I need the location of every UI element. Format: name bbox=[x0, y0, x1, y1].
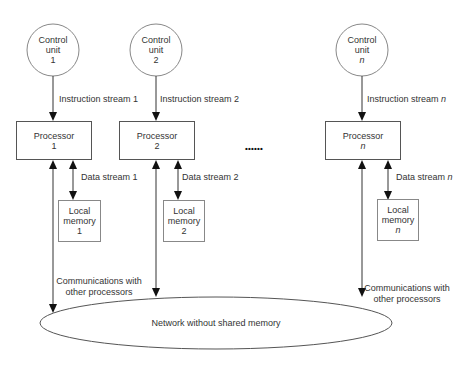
local-memory-1-line2: memory bbox=[58, 216, 101, 226]
communications-left-line1: Communications with bbox=[56, 276, 142, 287]
communications-label-right: Communications with other processors bbox=[364, 283, 450, 305]
instruction-stream-2-index: 2 bbox=[234, 94, 239, 104]
processor-2-index: 2 bbox=[119, 141, 195, 151]
control-unit-2-label: Control unit 2 bbox=[130, 35, 182, 65]
processor-n-text: Processor bbox=[325, 131, 401, 141]
control-unit-1-index: 1 bbox=[27, 55, 79, 65]
communications-right-line1: Communications with bbox=[364, 283, 450, 294]
local-memory-n-line2: memory bbox=[377, 215, 419, 225]
instruction-stream-1-text: Instruction stream bbox=[59, 94, 131, 104]
instruction-stream-n-label: Instruction stream n bbox=[367, 94, 446, 105]
network-label: Network without shared memory bbox=[130, 318, 302, 329]
instruction-stream-1-index: 1 bbox=[133, 94, 138, 104]
data-stream-2-label: Data stream 2 bbox=[182, 172, 239, 183]
local-memory-1-index: 1 bbox=[58, 226, 101, 236]
data-stream-n-text: Data stream bbox=[396, 172, 445, 182]
local-memory-n-index: n bbox=[377, 225, 419, 235]
control-unit-n-index: n bbox=[336, 55, 388, 65]
processor-ellipsis: • • • • • • bbox=[245, 143, 262, 154]
local-memory-2-label: Local memory 2 bbox=[163, 206, 205, 236]
data-stream-2-text: Data stream bbox=[182, 172, 231, 182]
control-unit-n-label: Control unit n bbox=[336, 35, 388, 65]
processor-1-text: Processor bbox=[16, 131, 92, 141]
communications-right-line2: other processors bbox=[364, 294, 450, 305]
local-memory-2-index: 2 bbox=[163, 226, 205, 236]
control-unit-n-line2: unit bbox=[336, 45, 388, 55]
control-unit-1-line2: unit bbox=[27, 45, 79, 55]
processor-1-label: Processor 1 bbox=[16, 131, 92, 151]
data-stream-1-label: Data stream 1 bbox=[81, 172, 138, 183]
control-unit-n-line1: Control bbox=[336, 35, 388, 45]
instruction-stream-n-text: Instruction stream bbox=[367, 94, 439, 104]
data-stream-n-label: Data stream n bbox=[396, 172, 453, 183]
control-unit-2-line1: Control bbox=[130, 35, 182, 45]
local-memory-1-label: Local memory 1 bbox=[58, 206, 101, 236]
data-stream-n-index: n bbox=[448, 172, 453, 182]
processor-1-index: 1 bbox=[16, 141, 92, 151]
processor-n-label: Processor n bbox=[325, 131, 401, 151]
instruction-stream-2-label: Instruction stream 2 bbox=[160, 94, 239, 105]
local-memory-1-line1: Local bbox=[58, 206, 101, 216]
data-stream-1-index: 1 bbox=[133, 172, 138, 182]
local-memory-2-line2: memory bbox=[163, 216, 205, 226]
data-stream-2-index: 2 bbox=[234, 172, 239, 182]
control-unit-1-label: Control unit 1 bbox=[27, 35, 79, 65]
local-memory-n-label: Local memory n bbox=[377, 205, 419, 235]
control-unit-2-index: 2 bbox=[130, 55, 182, 65]
instruction-stream-2-text: Instruction stream bbox=[160, 94, 232, 104]
processor-2-label: Processor 2 bbox=[119, 131, 195, 151]
local-memory-2-line1: Local bbox=[163, 206, 205, 216]
local-memory-n-line1: Local bbox=[377, 205, 419, 215]
instruction-stream-n-index: n bbox=[441, 94, 446, 104]
instruction-stream-1-label: Instruction stream 1 bbox=[59, 94, 138, 105]
control-unit-2-line2: unit bbox=[130, 45, 182, 55]
processor-n-index: n bbox=[325, 141, 401, 151]
communications-left-line2: other processors bbox=[56, 287, 142, 298]
communications-label-left: Communications with other processors bbox=[56, 276, 142, 298]
control-unit-1-line1: Control bbox=[27, 35, 79, 45]
data-stream-1-text: Data stream bbox=[81, 172, 130, 182]
processor-2-text: Processor bbox=[119, 131, 195, 141]
